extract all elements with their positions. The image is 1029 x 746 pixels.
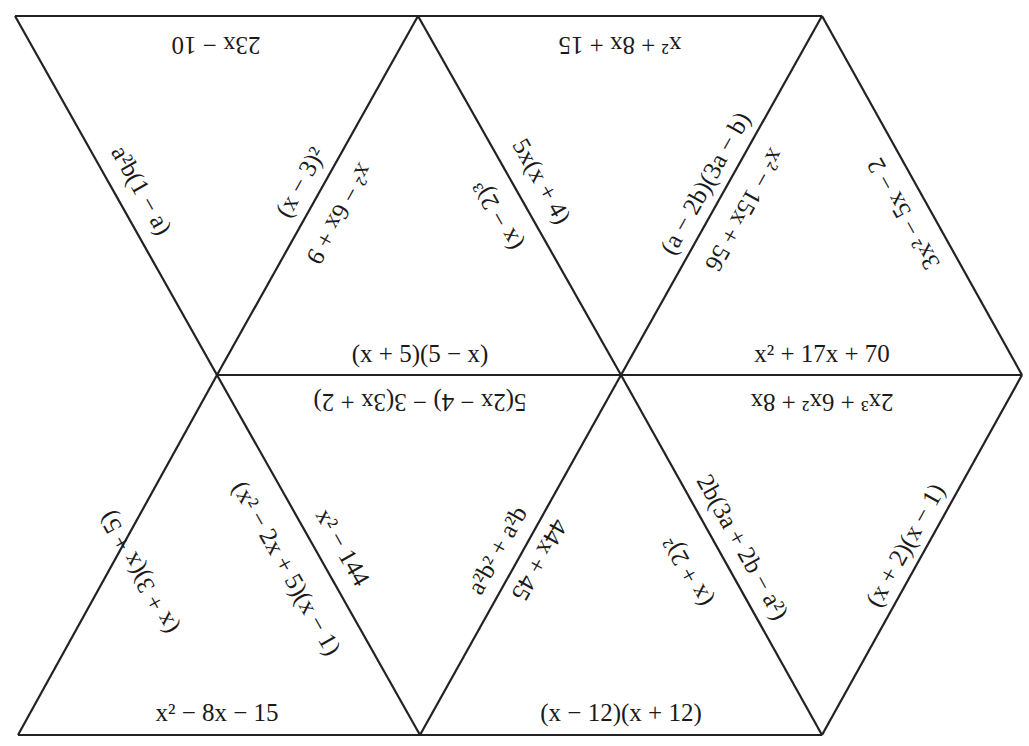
t8-top-edge-label: 2x³ + 6x² + 8x: [750, 390, 893, 415]
t4-bottom-edge-label: x² + 17x + 70: [754, 341, 890, 366]
triangle-puzzle: 23x − 10 a²b(1 − a) (x − 3)² x² − 6x + 9…: [0, 0, 1029, 746]
t2-bottom-edge-label: (x + 5)(5 − x): [352, 341, 489, 366]
t1-top-edge-label: 23x − 10: [171, 33, 260, 58]
t3-top-edge-label: x² + 8x + 15: [558, 33, 681, 58]
puzzle-grid-lines: [0, 0, 1029, 746]
t5-bottom-edge-label: x² − 8x − 15: [155, 700, 278, 725]
t6-top-edge-label: 5(2x − 4) − 3(3x + 2): [313, 390, 526, 415]
t7-bottom-edge-label: (x − 12)(x + 12): [540, 700, 702, 725]
